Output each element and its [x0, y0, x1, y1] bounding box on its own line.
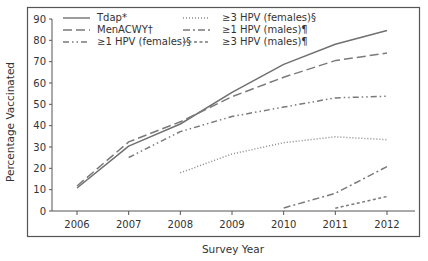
legend-label: ≥1 HPV (females)§ — [97, 36, 191, 47]
x-tick-label: 2009 — [219, 219, 244, 230]
x-tick-label: 2007 — [116, 219, 141, 230]
y-tick-label: 40 — [33, 120, 46, 131]
legend-label: ≥1 HPV (males)¶ — [222, 24, 308, 35]
x-tick-label: 2006 — [64, 219, 89, 230]
x-tick-label: 2012 — [374, 219, 399, 230]
y-tick-label: 90 — [33, 14, 46, 25]
line-chart: 0102030405060708090 20062007200820092010… — [0, 0, 428, 261]
x-tick-label: 2010 — [271, 219, 296, 230]
legend-label: ≥3 HPV (females)§ — [222, 12, 316, 23]
y-tick-label: 50 — [33, 99, 46, 110]
y-tick-label: 70 — [33, 56, 46, 67]
y-tick-label: 60 — [33, 78, 46, 89]
y-tick-label: 10 — [33, 184, 46, 195]
x-axis-title: Survey Year — [202, 243, 265, 255]
y-tick-label: 20 — [33, 163, 46, 174]
y-tick-label: 0 — [40, 206, 46, 217]
legend-label: Tdap* — [96, 12, 127, 23]
y-axis-title: Percentage Vaccinated — [4, 62, 16, 182]
x-tick-label: 2011 — [323, 219, 348, 230]
y-tick-label: 80 — [33, 35, 46, 46]
legend-label: MenACWY† — [97, 24, 153, 35]
legend-label: ≥3 HPV (males)¶ — [222, 36, 308, 47]
x-tick-label: 2008 — [168, 219, 193, 230]
y-tick-label: 30 — [33, 142, 46, 153]
